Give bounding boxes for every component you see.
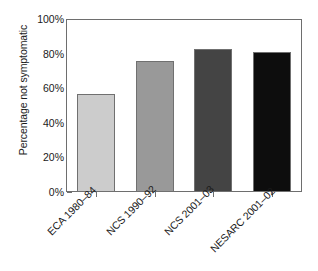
- bar-slot-1: [126, 20, 185, 192]
- bar-slot-3: [243, 20, 302, 192]
- bar-nesarc-2001-02[interactable]: [253, 52, 291, 192]
- bar-chart: Percentage not symptomatic 100% 80% 60% …: [0, 0, 318, 271]
- bar-ncs-2001-03[interactable]: [194, 49, 232, 192]
- bar-eca-1980-84[interactable]: [77, 94, 115, 192]
- y-tick-60: 60%: [0, 88, 72, 89]
- y-tick-mark: [67, 192, 72, 193]
- bar-slot-2: [184, 20, 243, 192]
- bar-series: [67, 20, 301, 192]
- bar-ncs-1990-92[interactable]: [136, 61, 174, 192]
- y-tick-label: 0%: [49, 186, 64, 198]
- y-tick-0: 0%: [0, 192, 72, 193]
- y-tick-label: 20%: [43, 151, 64, 163]
- bar-slot-0: [67, 20, 126, 192]
- y-tick-label: 60%: [43, 82, 64, 94]
- y-tick-20: 20%: [0, 157, 72, 158]
- y-tick-label: 40%: [43, 117, 64, 129]
- y-tick-100: 100%: [0, 19, 72, 20]
- y-tick-40: 40%: [0, 123, 72, 124]
- y-tick-80: 80%: [0, 54, 72, 55]
- y-tick-label: 100%: [37, 13, 64, 25]
- y-tick-label: 80%: [43, 48, 64, 60]
